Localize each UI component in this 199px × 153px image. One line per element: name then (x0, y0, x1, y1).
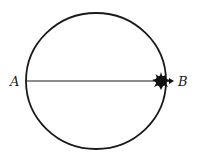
diagram-canvas: A B (0, 0, 199, 153)
label-b: B (177, 74, 188, 89)
arrow-icon (166, 78, 174, 84)
label-a: A (9, 74, 19, 89)
